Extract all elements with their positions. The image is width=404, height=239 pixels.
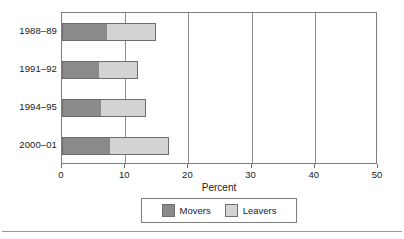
- category-label: 1991–92: [1, 63, 57, 74]
- category-label: 1994–95: [1, 101, 57, 112]
- bar-segment-leavers: [110, 137, 169, 155]
- x-tick-40: [314, 164, 315, 168]
- legend-label: Movers: [180, 205, 211, 216]
- x-tick-label-0: 0: [58, 169, 63, 180]
- x-tick-label-40: 40: [309, 169, 320, 180]
- legend-swatch-movers: [162, 204, 175, 217]
- footer-divider: [2, 231, 402, 232]
- legend-item-movers: Movers: [162, 204, 211, 217]
- x-tick-label-10: 10: [119, 169, 130, 180]
- bar-row: [62, 61, 138, 79]
- x-tick-label-20: 20: [182, 169, 193, 180]
- x-tick-10: [124, 164, 125, 168]
- bar-segment-movers: [62, 137, 110, 155]
- legend-swatch-leavers: [225, 204, 238, 217]
- bar-segment-movers: [62, 99, 101, 117]
- x-tick-label-30: 30: [245, 169, 256, 180]
- x-tick-label-50: 50: [372, 169, 383, 180]
- bar-row: [62, 137, 169, 155]
- chart-legend: MoversLeavers: [141, 198, 297, 223]
- category-label: 2000–01: [1, 139, 57, 150]
- x-tick-0: [61, 164, 62, 168]
- x-tick-20: [187, 164, 188, 168]
- y-axis-category-labels: 1988–891991–921994–952000–01: [0, 12, 57, 164]
- category-label: 1988–89: [1, 25, 57, 36]
- x-tick-50: [377, 164, 378, 168]
- x-tick-30: [251, 164, 252, 168]
- legend-item-leavers: Leavers: [225, 204, 277, 217]
- bars-layer: [62, 13, 376, 163]
- plot-area: [61, 12, 377, 164]
- x-axis-title: Percent: [61, 182, 377, 193]
- legend-label: Leavers: [243, 205, 277, 216]
- bar-segment-movers: [62, 61, 99, 79]
- bar-row: [62, 23, 156, 41]
- bar-row: [62, 99, 146, 117]
- bar-segment-leavers: [99, 61, 138, 79]
- bar-segment-movers: [62, 23, 107, 41]
- bar-segment-leavers: [101, 99, 146, 117]
- chart-figure: 1988–891991–921994–952000–01 01020304050…: [0, 0, 404, 239]
- bar-segment-leavers: [107, 23, 156, 41]
